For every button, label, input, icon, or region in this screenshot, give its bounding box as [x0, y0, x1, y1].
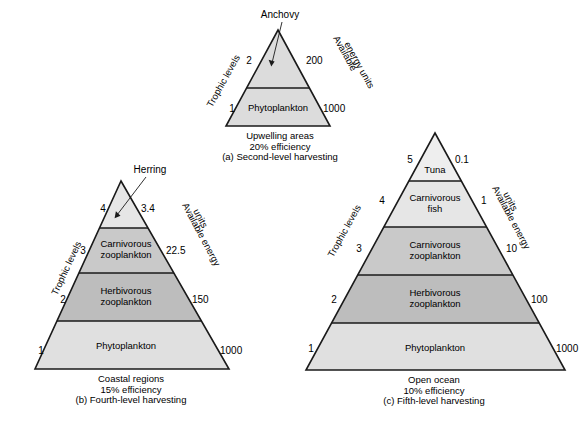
pyramid-c-level-5: 5 — [407, 154, 413, 165]
pyramid-c-caption-efficiency: 10% efficiency — [403, 385, 464, 396]
pyramid-c-band-2-name-line1: Herbivorous — [409, 287, 460, 298]
pyramid-b-band-3-name-line2: zooplankton — [100, 249, 151, 260]
pyramid-b-energy-4: 3.4 — [141, 203, 155, 214]
pyramid-c-energy-1: 1000 — [556, 343, 579, 354]
pyramid-c-level-3: 3 — [356, 243, 362, 254]
pyramid-c-energy-2: 100 — [531, 294, 548, 305]
pyramid-c-energy-3: 10 — [506, 243, 518, 254]
pyramid-c-energy-4: 1 — [481, 195, 487, 206]
pyramid-a-apex-callout: Anchovy — [261, 9, 299, 20]
pyramid-c-band-2-name-line2: zooplankton — [409, 298, 460, 309]
pyramid-a-caption-region: Upwelling areas — [246, 130, 314, 141]
pyramid-b-caption-efficiency: 15% efficiency — [100, 384, 161, 395]
pyramid-c-band-1-name: Phytoplankton — [405, 342, 465, 353]
pyramid-c-level-2: 2 — [331, 294, 337, 305]
pyramid-c-level-4: 4 — [379, 195, 385, 206]
pyramid-b-apex-callout: Herring — [134, 164, 167, 175]
pyramid-b-band-1-name: Phytoplankton — [96, 340, 156, 351]
pyramid-b-level-2: 2 — [60, 294, 66, 305]
pyramid-b-band-3-name-line1: Carnivorous — [100, 238, 151, 249]
pyramid-c-band-4-name-line1: Carnivorous — [409, 192, 460, 203]
pyramid-c-band-3-name-line2: zooplankton — [409, 250, 460, 261]
pyramid-b-level-4: 4 — [100, 203, 106, 214]
pyramid-b-energy-1: 1000 — [220, 345, 243, 356]
pyramid-a: Anchovy Trophic levels Available energy … — [204, 9, 377, 162]
pyramid-a-energy-1: 1000 — [323, 103, 346, 114]
pyramid-b: Herring Trophic levels Available energy … — [35, 164, 243, 405]
pyramid-b-energy-2: 150 — [192, 294, 209, 305]
pyramid-b-energy-3: 22.5 — [166, 245, 186, 256]
pyramid-c-caption-index: (c) Fifth-level harvesting — [383, 395, 484, 406]
pyramid-b-caption-index: (b) Fourth-level harvesting — [76, 394, 187, 405]
pyramid-c-band-4-name-line2: fish — [428, 203, 443, 214]
pyramid-b-band-2-name-line1: Herbivorous — [100, 285, 151, 296]
pyramid-b-level-3: 3 — [80, 245, 86, 256]
pyramid-a-caption-efficiency: 20% efficiency — [249, 141, 310, 152]
pyramid-a-left-axis-label: Trophic levels — [204, 52, 242, 109]
pyramid-a-caption-index: (a) Second-level harvesting — [222, 151, 338, 162]
food-pyramid-figure: Anchovy Trophic levels Available energy … — [0, 0, 588, 421]
pyramid-a-level-2: 2 — [246, 55, 252, 66]
pyramid-b-band-2-name-line2: zooplankton — [100, 296, 151, 307]
pyramid-b-caption-region: Coastal regions — [98, 373, 164, 384]
pyramid-a-energy-2: 200 — [306, 55, 323, 66]
pyramid-c: Trophic levels Available energy units 5 … — [306, 133, 579, 406]
pyramid-c-level-1: 1 — [308, 343, 314, 354]
pyramid-c-band-3-name-line1: Carnivorous — [409, 239, 460, 250]
pyramid-c-energy-5: 0.1 — [455, 154, 469, 165]
pyramid-c-band-5-name: Tuna — [424, 164, 446, 175]
pyramid-a-band-1-name: Phytoplankton — [248, 102, 308, 113]
pyramid-b-level-1: 1 — [38, 345, 44, 356]
pyramid-c-caption-region: Open ocean — [408, 374, 460, 385]
pyramid-a-level-1: 1 — [229, 103, 235, 114]
